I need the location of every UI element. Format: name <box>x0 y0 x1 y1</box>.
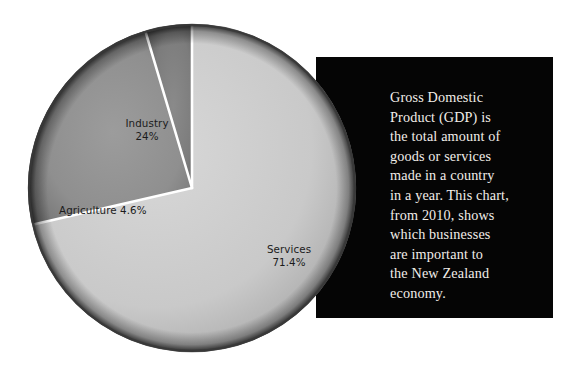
pie-label-industry: Industry 24% <box>104 117 190 142</box>
figure-canvas: Gross Domestic Product (GDP) is the tota… <box>0 0 568 373</box>
pie-chart: Industry 24% Agriculture 4.6% Services 7… <box>26 22 358 354</box>
pie-chart-svg <box>26 22 358 354</box>
info-panel-body-text: Gross Domestic Product (GDP) is the tota… <box>390 88 542 304</box>
pie-label-services: Services 71.4% <box>243 243 335 268</box>
pie-label-agriculture: Agriculture 4.6% <box>59 204 183 217</box>
